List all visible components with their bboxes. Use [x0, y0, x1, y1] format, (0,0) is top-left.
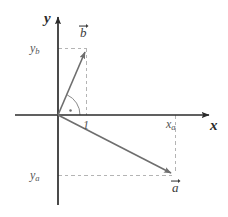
angle-arc — [67, 95, 80, 115]
tick-label-x-a: xa — [166, 118, 176, 132]
tick-label-y-a: ya — [30, 169, 40, 183]
axes — [15, 17, 209, 205]
guide-lines — [58, 48, 175, 175]
tick-label-x-a-subscript: a — [171, 122, 175, 132]
tick-label-unit-x: 1 — [83, 119, 89, 131]
tick-label-y-b-subscript: b — [35, 46, 39, 56]
tick-label-y-b: yb — [30, 42, 40, 56]
diagram-canvas — [0, 0, 228, 217]
vector-a — [58, 115, 171, 173]
vector-b-label: b — [80, 26, 87, 39]
vector-b-label-glyph: b — [80, 26, 87, 39]
tick-label-y-a-subscript: a — [35, 173, 39, 183]
vector-a-label-glyph: a — [172, 181, 179, 194]
vector-b — [58, 52, 85, 115]
angle-dot-marker — [69, 109, 72, 112]
vector-a-label: a — [172, 181, 179, 194]
y-axis-label: y — [44, 11, 51, 26]
x-axis-label: x — [210, 118, 218, 133]
vector-diagram: y x yb ya xa 1 b a — [0, 0, 228, 217]
vectors — [58, 52, 171, 173]
